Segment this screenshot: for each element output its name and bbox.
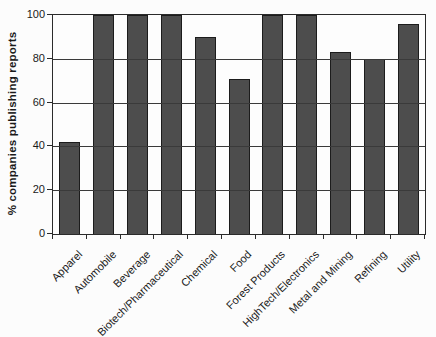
- bar-chart-figure: % companies publishing reports 020406080…: [0, 0, 436, 337]
- x-tick: [221, 234, 222, 239]
- bar: [127, 15, 148, 234]
- x-tick: [390, 234, 391, 239]
- x-category-label: Metal and Mining: [287, 248, 355, 316]
- bar: [262, 15, 283, 234]
- bar: [93, 15, 114, 234]
- x-category-label: Chemical: [179, 248, 220, 289]
- x-tick: [424, 234, 425, 239]
- x-tick: [289, 234, 290, 239]
- gridline: [53, 59, 425, 60]
- x-tick: [86, 234, 87, 239]
- bar: [59, 142, 80, 234]
- x-category-label: Utility: [395, 248, 422, 275]
- x-tick: [120, 234, 121, 239]
- bar: [330, 52, 351, 234]
- y-tick: [47, 102, 52, 103]
- bar: [296, 15, 317, 234]
- x-category-label: Food: [227, 248, 253, 274]
- y-tick-label: 40: [12, 139, 45, 151]
- y-tick-label: 100: [12, 8, 45, 20]
- bar: [398, 24, 419, 234]
- gridline: [53, 103, 425, 104]
- y-tick-label: 80: [12, 52, 45, 64]
- y-tick: [47, 14, 52, 15]
- y-tick-label: 20: [12, 183, 45, 195]
- x-category-label: Refining: [351, 248, 388, 285]
- x-tick: [323, 234, 324, 239]
- bar: [195, 37, 216, 234]
- x-tick: [356, 234, 357, 239]
- y-tick-label: 0: [12, 227, 45, 239]
- y-tick: [47, 145, 52, 146]
- x-tick: [255, 234, 256, 239]
- gridline: [53, 146, 425, 147]
- y-tick: [47, 189, 52, 190]
- y-tick: [47, 58, 52, 59]
- gridline: [53, 190, 425, 191]
- x-tick: [187, 234, 188, 239]
- bar: [161, 15, 182, 234]
- y-tick-label: 60: [12, 96, 45, 108]
- x-tick: [52, 234, 53, 239]
- x-tick: [153, 234, 154, 239]
